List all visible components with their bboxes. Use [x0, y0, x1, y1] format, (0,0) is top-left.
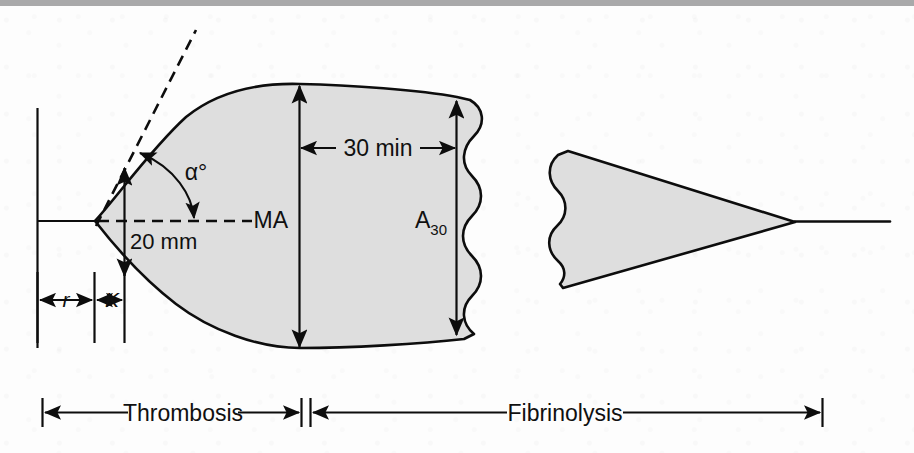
amplitude-20mm-label: 20 mm: [130, 229, 197, 254]
thrombosis-label: Thrombosis: [123, 400, 243, 426]
r-interval-label: r: [63, 288, 71, 311]
interval-30min-label: 30 min: [343, 135, 412, 161]
alpha-angle-label: α°: [185, 159, 208, 185]
clot-envelope-tail: [549, 151, 795, 288]
maximum-amplitude-label: MA: [254, 207, 289, 233]
fibrinolysis-label: Fibrinolysis: [507, 400, 622, 426]
amplitude-30min-base: A: [415, 207, 431, 233]
k-interval-label: K: [105, 288, 120, 311]
teg-figure: α° 20 mm r K MA A30 30 min Thrombosis: [0, 0, 914, 453]
teg-diagram-svg: α° 20 mm r K MA A30 30 min Thrombosis: [0, 0, 914, 453]
amplitude-30min-subscript: 30: [430, 221, 447, 238]
